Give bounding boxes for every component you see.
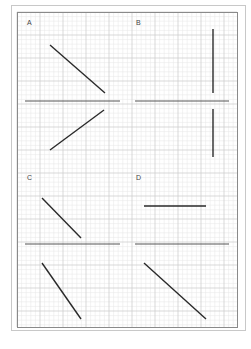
panel-label-c: C xyxy=(27,174,32,181)
panel-label-d: D xyxy=(136,174,141,181)
graph-paper-canvas xyxy=(0,0,251,349)
graph-paper-figure: A B C D xyxy=(0,0,251,349)
panel-label-b: B xyxy=(136,19,141,26)
panel-label-a: A xyxy=(27,19,32,26)
